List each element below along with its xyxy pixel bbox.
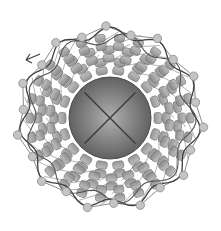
- nanoparticle-diagram: [0, 0, 221, 231]
- arrow-left-icon: [26, 54, 40, 63]
- diagram-canvas: [0, 0, 221, 231]
- core-sphere: [69, 77, 151, 159]
